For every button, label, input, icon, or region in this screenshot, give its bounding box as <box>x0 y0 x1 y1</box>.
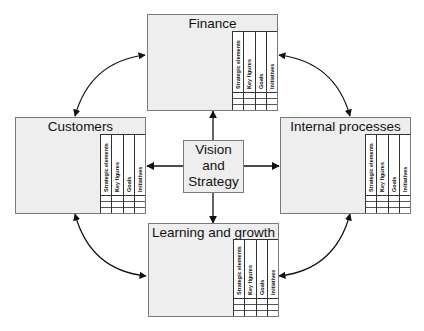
col-strategic: Strategic elements <box>233 32 244 110</box>
col-goals: Goals <box>389 135 400 213</box>
col-label: Key figures <box>247 265 253 295</box>
col-label: Goals <box>391 177 397 192</box>
col-label: Initiatives <box>269 64 275 89</box>
col-label: Strategic elements <box>103 143 109 192</box>
customers-title: Customers <box>16 119 145 134</box>
col-key-figures: Key figures <box>244 32 255 110</box>
col-goals: Goals <box>124 135 135 213</box>
col-label: Initiatives <box>270 270 276 295</box>
col-label: Goals <box>259 280 265 295</box>
learning-growth-title: Learning and growth <box>149 225 278 240</box>
col-label: Key figures <box>114 162 120 192</box>
customers-box: Customers Strategic elements Key figures… <box>15 117 146 214</box>
internal-processes-box: Internal processes Strategic elements Ke… <box>280 117 411 214</box>
col-label: Initiatives <box>137 167 143 192</box>
vision-strategy-box: Vision and Strategy <box>183 140 244 193</box>
col-goals: Goals <box>256 32 267 110</box>
finance-title: Finance <box>148 16 277 31</box>
col-label: Goals <box>126 177 132 192</box>
col-key-figures: Key figures <box>112 135 123 213</box>
learning-growth-box: Learning and growth Strategic elements K… <box>148 223 279 317</box>
col-label: Goals <box>258 74 264 89</box>
col-key-figures: Key figures <box>245 240 256 316</box>
col-initiatives: Initiatives <box>268 240 278 316</box>
internal-processes-title: Internal processes <box>281 119 410 134</box>
learning-growth-table: Strategic elements Key figures Goals Ini… <box>233 239 278 316</box>
col-strategic: Strategic elements <box>234 240 245 316</box>
col-key-figures: Key figures <box>377 135 388 213</box>
vision-line-3: Strategy <box>184 174 243 190</box>
col-initiatives: Initiatives <box>135 135 145 213</box>
finance-table: Strategic elements Key figures Goals Ini… <box>232 31 277 110</box>
col-label: Strategic elements <box>236 246 242 295</box>
vision-line-2: and <box>184 158 243 174</box>
col-label: Strategic elements <box>368 143 374 192</box>
vision-line-1: Vision <box>184 142 243 158</box>
col-label: Strategic elements <box>235 40 241 89</box>
finance-box: Finance Strategic elements Key figures G… <box>147 14 278 111</box>
col-label: Key figures <box>246 59 252 89</box>
col-label: Key figures <box>379 162 385 192</box>
col-strategic: Strategic elements <box>366 135 377 213</box>
customers-table: Strategic elements Key figures Goals Ini… <box>100 134 145 213</box>
col-strategic: Strategic elements <box>101 135 112 213</box>
internal-processes-table: Strategic elements Key figures Goals Ini… <box>365 134 410 213</box>
col-initiatives: Initiatives <box>400 135 410 213</box>
col-label: Initiatives <box>402 167 408 192</box>
col-initiatives: Initiatives <box>267 32 277 110</box>
col-goals: Goals <box>257 240 268 316</box>
